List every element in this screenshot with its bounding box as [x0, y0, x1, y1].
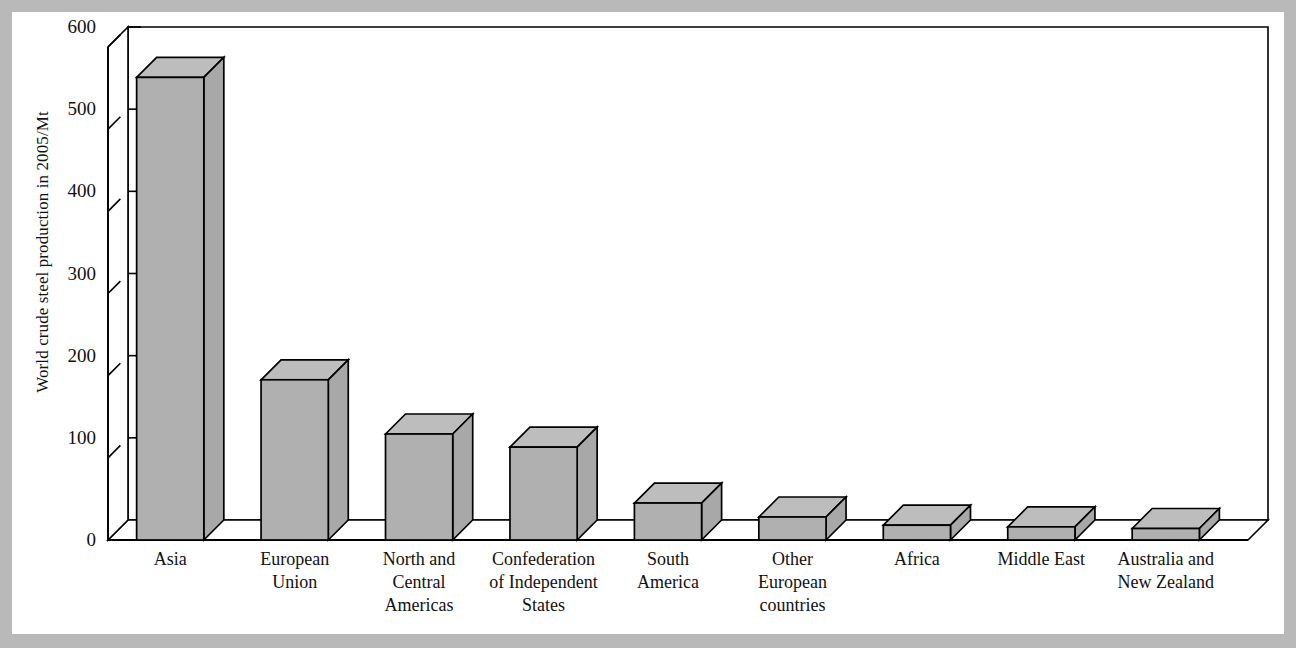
y-axis-tick-label: 200 [50, 346, 96, 365]
x-axis-category-label-line: countries [703, 594, 882, 617]
x-axis-category-label-line: States [454, 594, 633, 617]
chart-sheet [12, 12, 1284, 634]
figure-root: World crude steel production in 2005/Mt … [0, 0, 1296, 648]
y-axis-tick-label: 500 [50, 99, 96, 118]
y-axis-tick-label: 100 [50, 428, 96, 447]
y-axis-tick-label: 300 [50, 264, 96, 283]
x-axis-category-label-line: Australia and [1076, 548, 1255, 571]
y-axis-tick-label: 600 [50, 17, 96, 36]
y-axis-tick-label: 400 [50, 181, 96, 200]
x-axis-category-label: Australia andNew Zealand [1076, 548, 1255, 594]
x-axis-category-label-line: New Zealand [1076, 571, 1255, 594]
y-axis-tick-label: 0 [50, 530, 96, 549]
x-axis-category-label-line: European [703, 571, 882, 594]
